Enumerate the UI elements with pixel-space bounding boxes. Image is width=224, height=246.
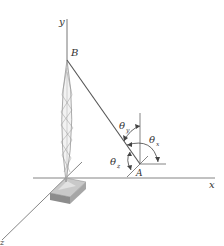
cable-BA — [67, 60, 140, 164]
lattice-tower — [61, 60, 73, 182]
svg-text:θ: θ — [110, 156, 116, 167]
svg-text:z: z — [116, 162, 121, 169]
svg-text:θ: θ — [149, 134, 155, 145]
z-reference-line-back — [140, 156, 148, 164]
svg-text:x: x — [156, 140, 160, 147]
point-B-label: B — [70, 47, 78, 58]
theta-x-label: θ x — [149, 134, 160, 147]
svg-text:y: y — [125, 126, 130, 134]
z-axis-label: z — [0, 238, 5, 246]
theta-y-label: θ y — [119, 120, 130, 134]
x-axis-label: x — [209, 179, 215, 190]
y-axis-label: y — [58, 16, 65, 27]
point-A-label: A — [135, 168, 143, 178]
theta-z-label: θ z — [110, 156, 121, 169]
tower-base — [50, 178, 86, 204]
tower-diagram: y x z B A θ y θ x θ z — [0, 0, 224, 246]
svg-text:θ: θ — [119, 120, 125, 131]
